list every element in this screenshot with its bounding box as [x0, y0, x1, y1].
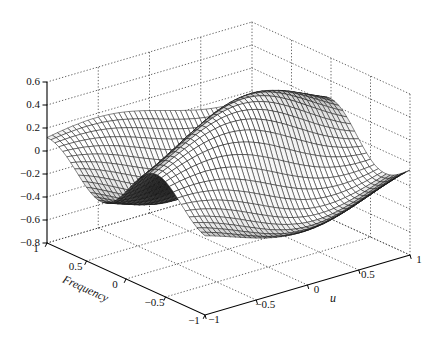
u-axis-tick-label: −1: [208, 313, 220, 325]
frequency-axis-tick-label: 0.5: [69, 260, 83, 272]
frequency-axis-tick-label: −1: [188, 314, 200, 326]
surface-figure: 0.60.40.20−0.2−0.4−0.6−0.810.50−0.5−1−1−…: [0, 0, 437, 343]
tick-mark: [205, 315, 206, 319]
z-axis-tick-label: 0.6: [26, 75, 40, 87]
z-axis-tick-label: −0.2: [20, 167, 40, 179]
tick-mark: [308, 285, 309, 289]
frequency-axis-label: Frequency: [60, 272, 111, 305]
grid-line: [252, 22, 410, 94]
z-axis-tick-label: 0: [35, 144, 41, 156]
surface-mesh: [47, 90, 410, 238]
grid-line: [98, 228, 256, 300]
grid-line: [166, 237, 371, 297]
frequency-axis-tick-label: −0.5: [145, 296, 165, 308]
u-axis-tick-label: 0: [314, 283, 320, 295]
surface-plot-canvas: 0.60.40.20−0.2−0.4−0.6−0.810.50−0.5−1−1−…: [0, 0, 437, 343]
z-axis-tick-label: 0.2: [26, 121, 40, 133]
z-axis-tick-label: 0.4: [26, 98, 40, 110]
tick-mark: [410, 255, 411, 259]
tick-mark: [45, 243, 47, 247]
z-axis-tick-label: −0.4: [20, 190, 40, 202]
u-axis-tick-label: 0.5: [361, 268, 375, 280]
tick-mark: [124, 279, 126, 283]
tick-mark: [85, 261, 87, 265]
tick-mark: [359, 270, 360, 274]
z-axis-tick-label: −0.6: [20, 213, 40, 225]
u-axis-label: u: [330, 291, 336, 305]
u-axis-tick-label: −0.5: [255, 298, 275, 310]
frequency-axis-tick-label: 1: [33, 242, 39, 254]
u-axis-tick-label: 1: [416, 253, 422, 265]
frequency-axis-tick-label: 0: [112, 278, 118, 290]
